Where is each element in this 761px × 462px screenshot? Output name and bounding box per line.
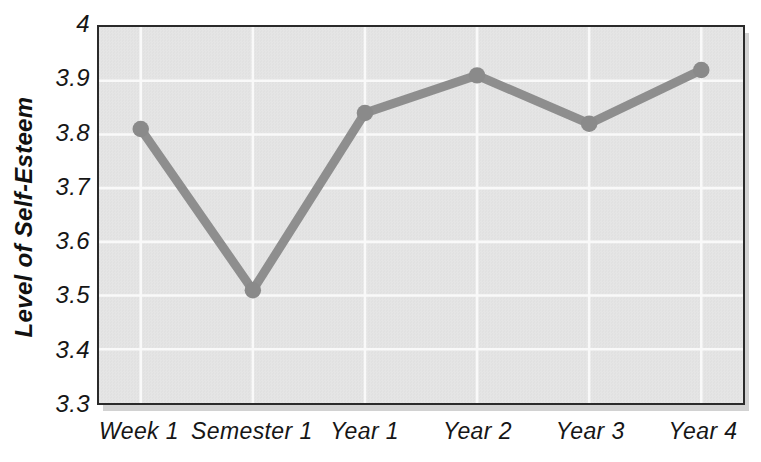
figure-page: Level of Self-Esteem 43.93.83.73.63.53.4…: [0, 0, 761, 462]
data-point-marker: [245, 282, 261, 298]
series-line: [141, 70, 702, 290]
x-tick-label: Year 2: [443, 418, 512, 445]
y-tick-label: 3.4: [55, 336, 90, 364]
x-tick-label: Week 1: [99, 418, 179, 445]
y-tick-label: 3.3: [55, 390, 90, 418]
data-point-marker: [132, 121, 148, 137]
x-tick-label: Year 3: [556, 418, 625, 445]
data-point-marker: [357, 105, 373, 121]
x-tick-label: Semester 1: [191, 418, 313, 445]
y-tick-label: 3.8: [55, 119, 90, 147]
data-point-marker: [693, 62, 709, 78]
data-point-marker: [581, 115, 597, 131]
x-tick-label: Year 1: [330, 418, 399, 445]
y-tick-label: 3.6: [55, 228, 90, 256]
x-tick-label: Year 4: [669, 418, 738, 445]
y-tick-label: 3.5: [55, 282, 90, 310]
y-tick-label: 3.9: [55, 65, 90, 93]
line-chart-svg: [99, 27, 743, 403]
y-tick-label: 3.7: [55, 173, 90, 201]
y-axis-title: Level of Self-Esteem: [10, 97, 38, 338]
data-point-marker: [469, 67, 485, 83]
plot-area: [97, 25, 745, 405]
y-tick-label: 4: [76, 10, 90, 38]
